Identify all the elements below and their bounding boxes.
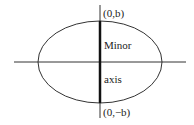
top-point-label: (0,b)	[103, 7, 124, 20]
bottom-point-label: (0,−b)	[103, 106, 131, 119]
ellipse-diagram: (0,b) Minor axis (0,−b)	[0, 0, 194, 125]
axis-label: axis	[104, 73, 122, 85]
minor-label: Minor	[104, 39, 132, 51]
